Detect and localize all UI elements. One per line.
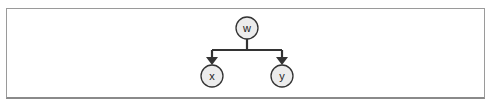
node-label-w: w — [242, 22, 251, 34]
arrowhead-icon — [206, 57, 218, 65]
tree-diagram: w x y — [0, 0, 495, 106]
edge-w-to-x-and-y — [206, 39, 288, 65]
node-y: y — [271, 65, 293, 87]
node-x: x — [201, 65, 223, 87]
node-w: w — [236, 17, 258, 39]
node-label-x: x — [209, 70, 215, 82]
arrowhead-icon — [276, 57, 288, 65]
node-label-y: y — [279, 70, 285, 82]
